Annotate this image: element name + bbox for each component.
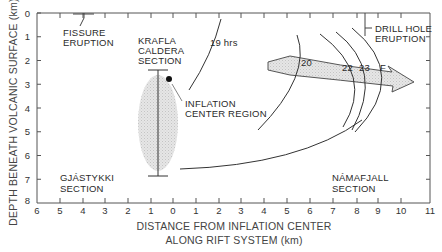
svg-text:5: 5	[25, 126, 30, 137]
curve-19hrs	[189, 19, 221, 90]
x-axis-top-ticks	[60, 13, 401, 18]
svg-text:9: 9	[375, 205, 380, 216]
curve-label-22: 22	[342, 62, 353, 73]
svg-text:5: 5	[284, 205, 289, 216]
svg-text:5: 5	[57, 205, 62, 216]
inflation-center-label-2: CENTER REGION	[185, 108, 267, 119]
svg-text:6: 6	[25, 150, 30, 161]
svg-text:1: 1	[25, 31, 30, 42]
svg-text:6: 6	[34, 205, 39, 216]
svg-text:3: 3	[238, 205, 243, 216]
svg-text:7: 7	[330, 205, 335, 216]
svg-text:8: 8	[354, 205, 359, 216]
svg-text:8: 8	[25, 195, 30, 206]
y-axis-ticks	[37, 13, 41, 179]
rift-diagram: 0 1 2 3 4 5 6 7 8 DEPTH BENEATH VOLCANIC…	[0, 0, 442, 252]
curve-label-23: 23	[359, 62, 370, 73]
svg-text:11: 11	[425, 205, 435, 216]
x-axis-ticks	[60, 198, 401, 203]
svg-text:7: 7	[25, 174, 30, 185]
fissure-eruption-label-2: ERUPTION	[63, 37, 114, 48]
label-19hrs: 19 hrs	[210, 37, 238, 48]
svg-text:2: 2	[216, 205, 221, 216]
curve-label-F: F	[380, 62, 386, 73]
drill-hole-marker	[365, 13, 372, 36]
y-axis-right-ticks	[426, 37, 430, 180]
svg-text:4: 4	[25, 103, 30, 114]
migration-arrow	[268, 56, 414, 92]
x-axis-tick-labels: 6 5 4 3 2 1 0 1 2 3 4 5 6 7 8 9 10 11	[34, 205, 435, 216]
y-axis-title: DEPTH BENEATH VOLCANIC SURFACE (km)	[7, 0, 19, 226]
x-axis-title-line2: ALONG RIFT SYSTEM (km)	[165, 234, 302, 246]
svg-text:6: 6	[307, 205, 312, 216]
svg-text:2: 2	[125, 205, 130, 216]
drill-hole-eruption-label-2: ERUPTION	[375, 33, 426, 44]
svg-text:1: 1	[193, 205, 198, 216]
svg-text:3: 3	[102, 205, 107, 216]
svg-text:3: 3	[25, 79, 30, 90]
krafla-caldera-label-3: SECTION	[138, 55, 182, 66]
svg-text:10: 10	[396, 205, 407, 216]
fissure-eruption-marker	[73, 13, 94, 26]
gjastykki-section-label-2: SECTION	[60, 183, 104, 194]
namafjall-section-label-2: SECTION	[332, 183, 376, 194]
svg-text:1: 1	[148, 205, 153, 216]
curve-long-propagation	[180, 120, 362, 169]
svg-text:4: 4	[80, 205, 85, 216]
curve-label-20: 20	[301, 57, 312, 68]
svg-text:2: 2	[25, 55, 30, 66]
gjastykki-section-label: GJÁSTYKKI	[60, 172, 114, 183]
y-axis-tick-labels: 0 1 2 3 4 5 6 7 8	[25, 8, 30, 207]
namafjall-section-label: NÁMAFJALL	[332, 172, 389, 183]
inflation-center-dot	[166, 76, 172, 82]
x-axis-title-line1: DISTANCE FROM INFLATION CENTER	[136, 220, 331, 232]
svg-text:0: 0	[25, 8, 30, 19]
svg-text:4: 4	[261, 205, 266, 216]
svg-text:0: 0	[170, 205, 175, 216]
